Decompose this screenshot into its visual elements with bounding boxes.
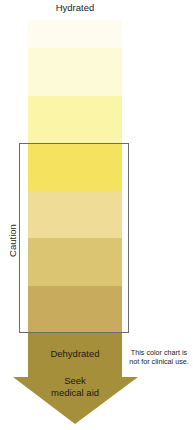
disclaimer-note: This color chart is not for clinical use… — [125, 348, 193, 366]
color-band-1 — [28, 20, 122, 48]
dehydrated-label: Dehydrated — [28, 348, 122, 359]
disclaimer-line-1: This color chart is — [125, 348, 193, 357]
medical-aid-label: medical aid — [28, 387, 122, 398]
hydrated-label: Hydrated — [0, 2, 150, 13]
color-band-3 — [28, 96, 122, 143]
color-band-2 — [28, 48, 122, 96]
disclaimer-line-2: not for clinical use. — [125, 357, 193, 366]
caution-bracket — [19, 143, 129, 333]
seek-label: Seek — [28, 375, 122, 386]
caution-label: Caution — [7, 213, 18, 269]
